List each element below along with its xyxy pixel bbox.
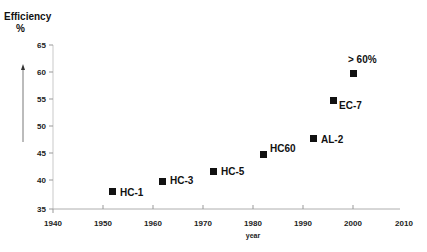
point-label: EC-7 [339, 100, 362, 111]
y-tick-label: 35 [37, 205, 46, 214]
y-ticks: 65 60 55 50 45 40 35 [37, 41, 53, 214]
x-tick-label: 1950 [94, 219, 112, 228]
x-tick-label: 1970 [194, 219, 212, 228]
y-axis-unit: % [16, 23, 25, 34]
marker-hc60 [260, 151, 267, 158]
marker-hc-5 [210, 168, 217, 175]
data-points: HC-1 HC-3 HC-5 HC60 AL-2 EC-7 > 60% [109, 54, 377, 198]
marker-hc-3 [159, 178, 166, 185]
y-axis-title: Efficiency [4, 11, 52, 22]
point-label: HC-1 [120, 187, 144, 198]
point-label: AL-2 [321, 134, 344, 145]
point-label: HC-5 [221, 166, 245, 177]
y-tick-label: 55 [37, 95, 46, 104]
x-axis-title: year [246, 232, 261, 240]
point-label: HC-3 [170, 175, 194, 186]
y-tick-label: 50 [37, 122, 46, 131]
marker-hc-1 [109, 188, 116, 195]
y-tick-label: 40 [37, 176, 46, 185]
point-label: > 60% [348, 54, 377, 65]
x-tick-label: 2000 [344, 219, 362, 228]
x-tick-label: 1990 [294, 219, 312, 228]
efficiency-chart: Efficiency % 65 60 55 50 45 40 35 1940 1… [0, 0, 427, 252]
point-label: HC60 [270, 143, 296, 154]
y-tick-label: 45 [37, 149, 46, 158]
marker-over-60 [350, 70, 357, 77]
x-tick-label: 2010 [395, 219, 413, 228]
marker-ec-7 [330, 97, 337, 104]
y-tick-label: 65 [37, 41, 46, 50]
x-tick-label: 1960 [144, 219, 162, 228]
up-arrow-icon [21, 64, 25, 70]
marker-al-2 [310, 135, 317, 142]
x-tick-label: 1980 [244, 219, 262, 228]
y-tick-label: 60 [37, 68, 46, 77]
x-ticks: 1940 1950 1960 1970 1980 1990 2000 2010 [44, 205, 413, 228]
x-tick-label: 1940 [44, 219, 62, 228]
